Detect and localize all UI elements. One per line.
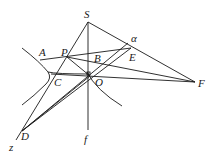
- hyperbola-left-upper-curve: [48, 72, 89, 74]
- line-D-E: [22, 48, 131, 131]
- label-f: f: [84, 133, 89, 145]
- label-E: E: [128, 51, 136, 63]
- line-S-z: [16, 22, 88, 140]
- label-C: C: [54, 76, 62, 88]
- label-z: z: [8, 141, 14, 153]
- label-P: P: [60, 46, 68, 58]
- label-D: D: [20, 130, 29, 142]
- label-O: O: [95, 76, 103, 88]
- label-B: B: [94, 52, 101, 64]
- point-O-marker: [87, 72, 90, 75]
- label-alpha: α: [131, 32, 137, 44]
- label-F: F: [197, 77, 205, 89]
- label-S: S: [84, 8, 90, 20]
- geometry-diagram: S α A P B E C O F D z f: [0, 0, 211, 157]
- label-A: A: [38, 46, 46, 58]
